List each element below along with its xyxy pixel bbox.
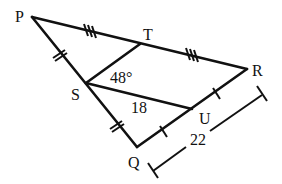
vertex-label-T: T <box>143 26 153 43</box>
triple-tick-PT <box>84 24 96 38</box>
vertex-label-Q: Q <box>128 154 140 171</box>
geometry-diagram: P T R S U Q 48° 18 22 <box>0 0 282 184</box>
vertex-label-U: U <box>199 110 211 127</box>
vertex-label-S: S <box>71 86 80 103</box>
vertex-label-R: R <box>252 62 263 79</box>
vertex-label-P: P <box>15 8 24 25</box>
angle-label-48: 48° <box>110 69 132 86</box>
length-label-QR: 22 <box>190 131 206 148</box>
length-label-SU: 18 <box>131 99 147 116</box>
dimension-line-QR <box>148 86 267 178</box>
triple-tick-TR <box>186 48 198 62</box>
